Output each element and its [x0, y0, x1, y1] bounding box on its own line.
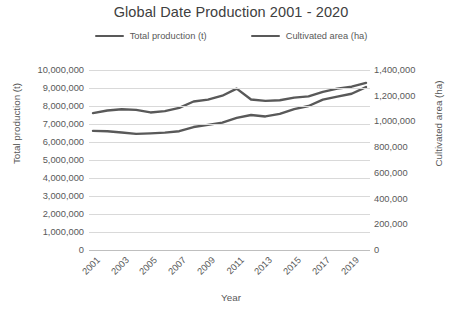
gridline	[89, 232, 370, 233]
legend-label-cultivated-area: Cultivated area (ha)	[286, 31, 368, 41]
gridline	[89, 196, 370, 197]
legend-swatch-total-production	[95, 35, 124, 37]
x-axis-title: Year	[0, 292, 462, 303]
y-axis-right-title: Cultivated area (ha)	[433, 64, 444, 184]
gridline	[89, 160, 370, 161]
chart-container: Global Date Production 2001 - 2020 Total…	[0, 0, 462, 320]
legend-item-cultivated-area[interactable]: Cultivated area (ha)	[251, 31, 368, 41]
gridline	[89, 178, 370, 179]
y-axis-left-tick: 0	[0, 245, 84, 255]
gridline	[89, 214, 370, 215]
y-axis-left-tick: 1,000,000	[0, 227, 84, 237]
chart-title: Global Date Production 2001 - 2020	[0, 4, 462, 20]
gridline	[89, 106, 370, 107]
y-axis-left-tick: 2,000,000	[0, 209, 84, 219]
legend-item-total-production[interactable]: Total production (t)	[95, 31, 207, 41]
plot-area	[93, 70, 366, 250]
gridline	[89, 142, 370, 143]
gridline	[89, 124, 370, 125]
chart-legend: Total production (t) Cultivated area (ha…	[0, 31, 462, 41]
y-axis-left-tick: 3,000,000	[0, 191, 84, 201]
legend-label-total-production: Total production (t)	[130, 31, 207, 41]
y-axis-right-tick: 400,000	[374, 194, 454, 204]
y-axis-right-tick: 0	[374, 245, 454, 255]
legend-swatch-cultivated-area	[251, 35, 280, 37]
gridline	[89, 70, 370, 71]
gridline	[89, 88, 370, 89]
y-axis-right-tick: 200,000	[374, 219, 454, 229]
gridline	[89, 250, 370, 251]
y-axis-left-title: Total production (t)	[11, 64, 22, 184]
